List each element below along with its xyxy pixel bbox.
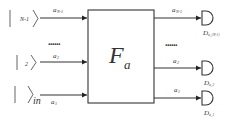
output-wire-label-n-1: a N-1 xyxy=(172,6,182,14)
ellipsis-right: ...... xyxy=(165,37,178,48)
input-wire-label-1: a 1 xyxy=(51,98,57,106)
label-sub: N-1 xyxy=(175,9,182,14)
detector-n-1: D a_{N-1} xyxy=(202,11,220,37)
input-ket-n-1: N-1 xyxy=(10,10,38,27)
detector-icon xyxy=(202,11,213,25)
label-sub: N-1 xyxy=(56,9,63,14)
label-sub: 2 xyxy=(177,60,179,65)
label-sub: 1 xyxy=(178,89,180,94)
detector-2: D a_2 xyxy=(202,61,215,87)
input-wire-label-2: a 2 xyxy=(53,52,59,60)
output-wire-label-1: a 1 xyxy=(174,86,180,94)
detector-1: D a_1 xyxy=(202,91,215,117)
ket-label: in xyxy=(33,95,41,106)
detector-icon xyxy=(202,61,213,75)
quantum-circuit-diagram: F a N-1 2 in a N-1 a 2 a 1 ...... a N-1 xyxy=(0,0,226,123)
box-label-sub: a xyxy=(124,57,131,72)
input-wire-label-n-1: a N-1 xyxy=(53,6,63,14)
ket-label: 2 xyxy=(25,61,28,67)
detector-label-sub: a_2 xyxy=(209,83,215,87)
detector-label-sub: a_1 xyxy=(209,113,215,117)
ket-label: N-1 xyxy=(19,16,29,22)
box-label-main: F xyxy=(108,42,124,68)
ellipsis-left: ...... xyxy=(48,36,61,47)
detector-icon xyxy=(202,91,213,105)
input-ket-in: in xyxy=(15,86,41,106)
input-ket-2: 2 xyxy=(17,55,36,70)
detector-label-sub: a_{N-1} xyxy=(208,33,220,37)
label-sub: 1 xyxy=(55,101,57,106)
ket-angle xyxy=(31,55,36,70)
ket-angle xyxy=(33,10,38,27)
output-wire-label-2: a 2 xyxy=(173,57,179,65)
label-sub: 2 xyxy=(57,55,59,60)
